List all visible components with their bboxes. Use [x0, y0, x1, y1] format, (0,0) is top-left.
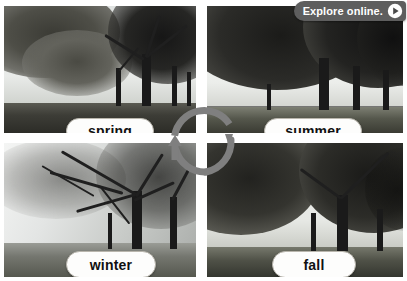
summer-trunk-main [319, 58, 329, 110]
summer-trunk-2 [353, 66, 360, 110]
winter-trunk-3 [108, 213, 112, 249]
spring-trunk-4 [187, 72, 191, 106]
panel-summer[interactable]: summer [207, 6, 403, 133]
panel-fall[interactable]: fall [207, 143, 403, 277]
spring-trunk-main [142, 54, 151, 106]
season-label-summer-text: summer [285, 123, 341, 133]
spring-trunk-2 [116, 68, 121, 106]
season-label-winter-text: winter [90, 257, 132, 273]
winter-trunk-2 [170, 197, 177, 249]
season-label-spring-text: spring [88, 123, 132, 133]
season-label-fall[interactable]: fall [272, 251, 356, 277]
explore-online-label: Explore online. [303, 5, 383, 17]
season-label-winter[interactable]: winter [66, 251, 156, 277]
season-label-spring[interactable]: spring [66, 118, 154, 133]
play-icon[interactable] [387, 3, 403, 19]
panel-spring[interactable]: spring [4, 6, 196, 133]
summer-trunk-3 [383, 70, 389, 110]
fall-trunk-3 [377, 209, 383, 251]
panel-winter[interactable]: winter [4, 143, 196, 277]
spring-trunk-3 [172, 66, 177, 106]
season-label-summer[interactable]: summer [264, 118, 362, 133]
fall-trunk-main [337, 195, 348, 251]
explore-online-badge[interactable]: Explore online. [294, 1, 406, 21]
fall-trunk-2 [311, 213, 316, 251]
seasons-cycle-figure: spring summer [0, 0, 407, 281]
summer-trunk-4 [267, 84, 271, 110]
season-label-fall-text: fall [303, 257, 324, 273]
